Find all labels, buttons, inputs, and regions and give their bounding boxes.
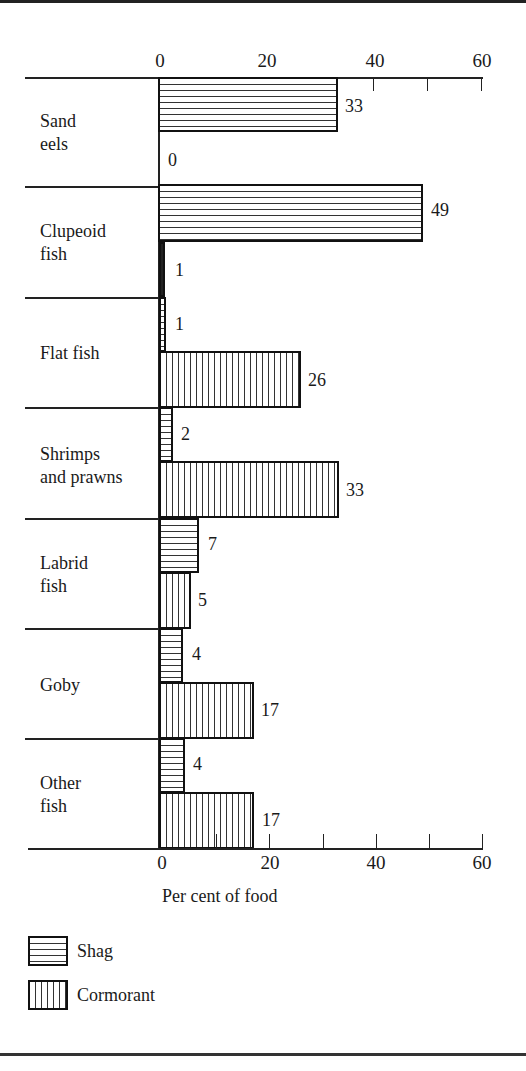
bottom-tick-50 [429,834,430,848]
bottom-border [0,1053,526,1056]
bottom-tick-label-20: 20 [261,852,280,874]
legend-swatch-horizontal-lines-icon [28,936,68,966]
category-label-shrimps-and-prawns: Shrimps and prawns [40,443,122,489]
bar-labrid-fish-cormorant [159,572,191,629]
bar-clupeoid-fish-cormorant [159,242,165,297]
legend-swatch-vertical-lines-icon [28,980,68,1010]
bar-clupeoid-fish-shag [158,184,423,242]
bar-flat-fish-cormorant [159,351,301,408]
bottom-tick-30 [323,834,324,848]
bottom-tick-20 [269,834,270,848]
value-label-clupeoid-fish-shag: 49 [431,200,449,221]
value-label-other-fish-cormorant: 17 [262,810,280,831]
value-label-clupeoid-fish-cormorant: 1 [175,260,184,281]
value-label-shrimps-and-prawns-shag: 2 [181,424,190,445]
bottom-tick-40 [376,834,377,848]
value-label-labrid-fish-shag: 7 [208,534,217,555]
value-label-other-fish-shag: 4 [193,754,202,775]
bar-shrimps-and-prawns-shag [159,407,173,462]
legend-label-cormorant: Cormorant [77,985,155,1006]
value-label-sand-eels-shag: 33 [345,96,363,117]
category-label-flat-fish: Flat fish [40,342,100,365]
bar-chart: 0 20 40 60 Sand eels 33 0 Clupeoid fish … [0,0,526,1071]
category-label-goby: Goby [40,674,80,697]
bar-sand-eels-shag [158,77,338,132]
row-separator [25,297,160,299]
value-label-goby-shag: 4 [192,644,201,665]
category-label-clupeoid-fish: Clupeoid fish [40,220,106,266]
category-label-labrid-fish: Labrid fish [40,552,88,598]
top-tick-60 [481,77,482,91]
category-label-other-fish: Other fish [40,772,81,818]
x-axis-label: Per cent of food [162,886,277,907]
row-separator [25,628,160,630]
bar-flat-fish-shag [159,297,166,352]
bar-other-fish-cormorant [159,792,254,849]
top-tick-40 [373,77,374,91]
bar-goby-shag [159,628,183,683]
bottom-tick-60 [482,834,483,848]
legend-label-shag: Shag [77,941,113,962]
bottom-tick-label-0: 0 [157,852,167,874]
legend-item-cormorant: Cormorant [28,980,155,1010]
top-tick-50 [427,77,428,91]
row-separator [25,738,160,740]
row-separator [25,518,160,520]
category-label-sand-eels: Sand eels [40,110,76,156]
value-label-flat-fish-shag: 1 [175,314,184,335]
value-label-shrimps-and-prawns-cormorant: 33 [346,480,364,501]
top-tick-label-40: 40 [366,50,385,72]
bottom-tick-10 [216,834,217,848]
bar-other-fish-shag [159,738,185,793]
top-tick-label-0: 0 [155,50,165,72]
bar-labrid-fish-shag [159,518,199,573]
bottom-tick-label-40: 40 [367,852,386,874]
top-tick-label-60: 60 [473,50,492,72]
top-tick-label-20: 20 [258,50,277,72]
bar-shrimps-and-prawns-cormorant [159,461,339,518]
bar-goby-cormorant [159,682,254,739]
value-label-sand-eels-cormorant: 0 [168,150,177,171]
value-label-goby-cormorant: 17 [261,700,279,721]
value-label-labrid-fish-cormorant: 5 [198,590,207,611]
legend-item-shag: Shag [28,936,113,966]
value-label-flat-fish-cormorant: 26 [308,370,326,391]
bottom-axis-line [28,848,483,850]
row-separator [25,186,160,188]
row-separator [25,407,160,409]
bottom-tick-label-60: 60 [473,852,492,874]
